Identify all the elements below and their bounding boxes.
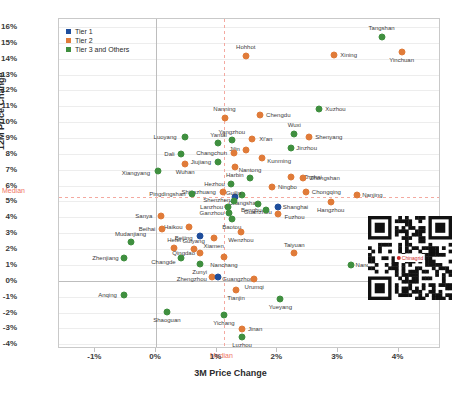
data-point[interactable] <box>291 131 298 138</box>
data-point[interactable] <box>182 134 189 141</box>
gridline <box>59 154 439 155</box>
data-point[interactable] <box>228 215 235 222</box>
data-point-label: Zhenjiang <box>92 255 118 261</box>
data-point-label: Sanya <box>135 213 152 219</box>
data-point[interactable] <box>327 199 334 206</box>
data-point-label: Xiamen <box>203 243 223 249</box>
data-point[interactable] <box>239 334 246 341</box>
data-point-label: Yinchuan <box>389 57 414 63</box>
legend-item-3[interactable]: Tier 3 and Others <box>66 46 129 53</box>
data-point[interactable] <box>239 326 246 333</box>
data-point-label: Luoyang <box>154 134 177 140</box>
data-point[interactable] <box>233 286 240 293</box>
data-point[interactable] <box>220 312 227 319</box>
data-point-label: Kunming <box>267 158 291 164</box>
x-axis-tick: 3% <box>331 352 343 361</box>
y-axis-tick: 4% <box>0 212 17 221</box>
data-point[interactable] <box>291 250 298 257</box>
data-point[interactable] <box>242 146 249 153</box>
data-point[interactable] <box>275 204 282 211</box>
data-point[interactable] <box>227 181 234 188</box>
data-point[interactable] <box>315 105 322 112</box>
data-point[interactable] <box>231 164 238 171</box>
legend-label: Tier 1 <box>75 28 93 35</box>
data-point-label: Shenyang <box>315 134 342 140</box>
data-point[interactable] <box>257 111 264 118</box>
data-point[interactable] <box>159 225 166 232</box>
data-point[interactable] <box>121 254 128 261</box>
data-point[interactable] <box>214 159 221 166</box>
x-axis-tick-mark <box>94 348 95 352</box>
data-point-label: Wenzhou <box>228 237 253 243</box>
data-point-label: Dali <box>164 151 174 157</box>
data-point[interactable] <box>121 291 128 298</box>
data-point[interactable] <box>178 255 185 262</box>
y-axis-tick: -4% <box>0 339 17 348</box>
y-axis-tick: 9% <box>0 132 17 141</box>
data-point-label: Jiujiang <box>191 159 211 165</box>
x-axis-tick-mark <box>216 348 217 352</box>
data-point[interactable] <box>237 228 244 235</box>
data-point[interactable] <box>196 261 203 268</box>
data-point[interactable] <box>220 253 227 260</box>
data-point[interactable] <box>189 190 196 197</box>
data-point-label: Ganzhou <box>200 210 224 216</box>
qr-code[interactable]: Chinagrid <box>368 216 452 300</box>
data-point[interactable] <box>215 140 222 147</box>
x-zero-axis <box>156 19 157 347</box>
data-point[interactable] <box>269 184 276 191</box>
y-axis-tick: -3% <box>0 323 17 332</box>
data-point[interactable] <box>251 275 258 282</box>
data-point[interactable] <box>163 308 170 315</box>
data-point[interactable] <box>214 274 221 281</box>
data-point[interactable] <box>210 234 217 241</box>
y-axis-tick: 0% <box>0 275 17 284</box>
y-axis-tick: 3% <box>0 228 17 237</box>
data-point[interactable] <box>259 154 266 161</box>
data-point[interactable] <box>354 191 361 198</box>
data-point-label: Jinzhou <box>296 145 317 151</box>
data-point[interactable] <box>157 213 164 220</box>
data-point[interactable] <box>228 137 235 144</box>
gridline <box>59 90 439 91</box>
data-point-label: Changchun <box>196 150 227 156</box>
data-point[interactable] <box>287 173 294 180</box>
data-point[interactable] <box>263 206 270 213</box>
data-point[interactable] <box>398 48 405 55</box>
data-point[interactable] <box>182 160 189 167</box>
x-axis-tick-mark <box>155 348 156 352</box>
data-point[interactable] <box>247 174 254 181</box>
data-point-label: Urumqi <box>245 284 264 290</box>
data-point[interactable] <box>154 167 161 174</box>
legend-item-2[interactable]: Tier 2 <box>66 37 129 44</box>
data-point[interactable] <box>330 51 337 58</box>
legend-item-1[interactable]: Tier 1 <box>66 28 129 35</box>
data-point[interactable] <box>287 144 294 151</box>
data-point[interactable] <box>248 135 255 142</box>
data-point-label: Hefei <box>167 237 181 243</box>
data-point[interactable] <box>305 134 312 141</box>
data-point[interactable] <box>378 34 385 41</box>
data-point[interactable] <box>230 197 237 204</box>
x-axis-title: 3M Price Change <box>0 368 461 378</box>
y-axis-tick: 10% <box>0 117 17 126</box>
data-point[interactable] <box>178 150 185 157</box>
data-point[interactable] <box>196 249 203 256</box>
data-point-label: Hezhou <box>204 181 225 187</box>
legend-swatch-icon <box>66 38 71 43</box>
data-point[interactable] <box>186 224 193 231</box>
y-axis-tick: 12% <box>0 85 17 94</box>
data-point[interactable] <box>303 188 310 195</box>
data-point[interactable] <box>348 262 355 269</box>
data-point-label: Tangshan <box>369 25 395 31</box>
data-point[interactable] <box>230 150 237 157</box>
data-point[interactable] <box>275 211 282 218</box>
data-point[interactable] <box>242 52 249 59</box>
data-point[interactable] <box>221 115 228 122</box>
data-point[interactable] <box>299 174 306 181</box>
data-point[interactable] <box>277 296 284 303</box>
data-point-label: Xi'an <box>259 136 272 142</box>
data-point-label: Taiyuan <box>284 242 305 248</box>
gridline <box>59 75 439 76</box>
data-point[interactable] <box>127 239 134 246</box>
